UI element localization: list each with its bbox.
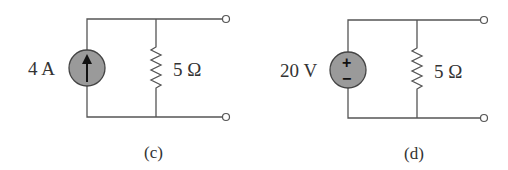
circuit-d-resistor-label: 5 Ω <box>434 61 462 82</box>
plus-sign: + <box>342 54 351 71</box>
circuit-d-source-label: 20 V <box>280 60 317 81</box>
circuit-figure: 4 A 5 Ω (c) + − 20 V 5 Ω (d) <box>0 0 508 170</box>
circuit-d-caption: (d) <box>404 144 424 163</box>
circuit-c-terminal-bottom <box>223 114 230 121</box>
circuit-c-bottom-wire <box>87 86 223 117</box>
voltage-source-icon: + − <box>330 52 366 88</box>
circuit-c-caption: (c) <box>144 143 163 162</box>
current-source-icon <box>69 50 105 86</box>
circuit-c-top-wire <box>87 19 223 50</box>
circuit-c-terminal-top <box>223 16 230 23</box>
circuit-d-resistor-icon <box>412 20 422 118</box>
circuit-c: 4 A 5 Ω (c) <box>28 16 230 163</box>
circuit-c-source-label: 4 A <box>28 58 55 79</box>
circuit-c-resistor-icon <box>151 19 161 117</box>
circuit-d-terminal-top <box>481 17 488 24</box>
circuit-d: + − 20 V 5 Ω (d) <box>280 17 488 164</box>
circuit-d-bottom-wire <box>348 88 481 118</box>
minus-sign: − <box>342 70 351 87</box>
circuit-d-top-wire <box>348 20 481 52</box>
circuit-d-terminal-bottom <box>481 115 488 122</box>
circuit-c-resistor-label: 5 Ω <box>173 59 201 80</box>
